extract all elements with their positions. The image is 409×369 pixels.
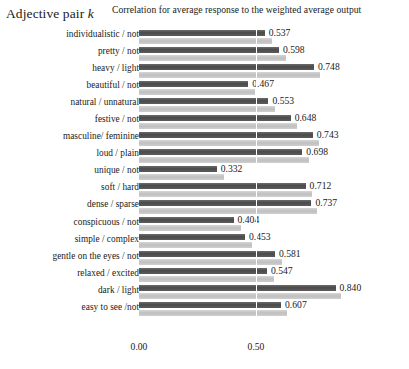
bar-dark <box>139 268 267 274</box>
bar-dark <box>139 149 302 155</box>
bar-group: 0.547 <box>139 268 409 283</box>
bar-dark <box>139 115 291 121</box>
bar-dark <box>139 81 248 87</box>
value-label: 0.607 <box>285 299 307 310</box>
chart-row: individualistic / not0.537 <box>0 28 409 45</box>
bar-dark <box>139 251 275 257</box>
bar-light <box>139 106 275 112</box>
chart-row: unique / not0.332 <box>0 164 409 181</box>
bar-dark <box>139 47 279 53</box>
bar-dark <box>139 64 314 70</box>
value-label: 0.743 <box>317 129 339 140</box>
bar-dark <box>139 30 265 36</box>
value-label: 0.453 <box>249 231 271 242</box>
bar-group: 0.748 <box>139 63 409 78</box>
value-label: 0.537 <box>269 27 291 38</box>
x-axis: 0.000.50 <box>0 341 409 361</box>
bar-light <box>139 242 252 248</box>
category-label: gentle on the eyes / not <box>0 250 139 262</box>
bar-group: 0.743 <box>139 131 409 146</box>
bar-dark <box>139 234 245 240</box>
category-label: heavy / light <box>0 62 139 74</box>
x-tick-label: 0.50 <box>248 341 265 352</box>
bar-group: 0.404 <box>139 217 409 232</box>
chart-row: natural / unnatural0.553 <box>0 96 409 113</box>
chart-row: pretty / not0.598 <box>0 45 409 62</box>
plot-area: individualistic / not0.537pretty / not0.… <box>0 28 409 338</box>
bar-light <box>139 259 282 265</box>
value-label: 0.553 <box>272 95 294 106</box>
bar-group: 0.581 <box>139 251 409 266</box>
bar-light <box>139 123 297 129</box>
value-label: 0.598 <box>283 44 305 55</box>
category-label: loud / plain <box>0 147 139 159</box>
x-tick-label: 0.00 <box>131 341 148 352</box>
bar-light <box>139 174 224 180</box>
y-axis-title-text: Adjective pair <box>6 6 88 21</box>
chart-row: loud / plain0.698 <box>0 147 409 164</box>
bar-group: 0.453 <box>139 234 409 249</box>
value-label: 0.332 <box>221 163 243 174</box>
value-label: 0.581 <box>279 248 301 259</box>
chart-row: dense / sparse0.737 <box>0 198 409 215</box>
bar-dark <box>139 302 281 308</box>
bar-light <box>139 140 319 146</box>
category-label: easy to see /not <box>0 301 139 313</box>
bar-group: 0.332 <box>139 165 409 180</box>
bar-dark <box>139 98 268 104</box>
bar-group: 0.537 <box>139 29 409 44</box>
category-label: individualistic / not <box>0 28 139 40</box>
chart-row: masculine/ feminine0.743 <box>0 130 409 147</box>
bar-group: 0.607 <box>139 302 409 317</box>
chart-title: Correlation for average response to the … <box>112 4 361 15</box>
bar-light <box>139 225 241 231</box>
chart-row: dark / light0.840 <box>0 284 409 301</box>
category-label: masculine/ feminine <box>0 130 139 142</box>
category-label: beautiful / not <box>0 79 139 91</box>
bar-group: 0.712 <box>139 182 409 197</box>
bar-light <box>139 72 320 78</box>
bar-dark <box>139 217 234 223</box>
bar-dark <box>139 200 311 206</box>
bar-dark <box>139 285 336 291</box>
bar-light <box>139 276 274 282</box>
chart-container: Adjective pair k Correlation for average… <box>0 0 409 369</box>
value-label: 0.840 <box>340 282 362 293</box>
value-label: 0.748 <box>318 61 340 72</box>
chart-row: simple / complex0.453 <box>0 233 409 250</box>
value-label: 0.648 <box>295 112 317 123</box>
y-axis-title: Adjective pair k <box>6 6 94 22</box>
bar-group: 0.467 <box>139 80 409 95</box>
value-label: 0.737 <box>315 197 337 208</box>
category-label: relaxed / excited <box>0 267 139 279</box>
y-axis-title-variable: k <box>88 6 94 21</box>
chart-row: relaxed / excited0.547 <box>0 267 409 284</box>
bar-light <box>139 208 317 214</box>
bar-group: 0.698 <box>139 148 409 163</box>
bar-group: 0.598 <box>139 46 409 61</box>
bar-group: 0.553 <box>139 97 409 112</box>
chart-row: beautiful / not0.467 <box>0 79 409 96</box>
category-label: festive / not <box>0 113 139 125</box>
bar-light <box>139 293 341 299</box>
value-label: 0.698 <box>306 146 328 157</box>
category-label: soft / hard <box>0 181 139 193</box>
value-label: 0.547 <box>271 265 293 276</box>
category-label: natural / unnatural <box>0 96 139 108</box>
chart-row: soft / hard0.712 <box>0 181 409 198</box>
category-label: simple / complex <box>0 233 139 245</box>
chart-row: heavy / light0.748 <box>0 62 409 79</box>
bar-dark <box>139 166 217 172</box>
bar-group: 0.648 <box>139 114 409 129</box>
chart-row: gentle on the eyes / not0.581 <box>0 250 409 267</box>
value-label: 0.712 <box>310 180 332 191</box>
bar-light <box>139 38 272 44</box>
bar-group: 0.737 <box>139 199 409 214</box>
bar-light <box>139 191 312 197</box>
bar-light <box>139 55 286 61</box>
chart-row: easy to see /not0.607 <box>0 301 409 318</box>
bar-light <box>139 89 255 95</box>
category-label: dense / sparse <box>0 198 139 210</box>
category-label: pretty / not <box>0 45 139 57</box>
bar-dark <box>139 132 313 138</box>
